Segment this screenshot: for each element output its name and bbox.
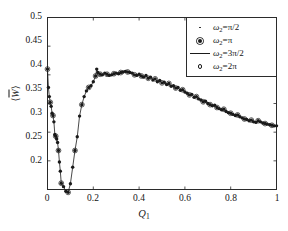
y-axis-label: ⟨W⟩: [10, 81, 21, 107]
star-marker-icon: [187, 39, 213, 43]
legend-entry: ω2=π: [187, 34, 276, 47]
point-marker-icon: [187, 27, 213, 29]
x-tick-label: 0.6: [171, 194, 199, 204]
legend-entry-label: ω2=2π: [213, 61, 237, 72]
y-tick-label: 0.5: [4, 12, 42, 22]
x-tick-label: 1: [263, 194, 288, 204]
x-tick-label: 0: [33, 194, 61, 204]
legend-entry-label: ω2=π: [213, 35, 232, 46]
y-tick-label: 0.25: [4, 132, 42, 142]
legend-entry: ω2=π/2: [187, 21, 276, 34]
legend-entry-label: ω2=π/2: [213, 22, 239, 33]
x-axis-label-sub: 1: [146, 212, 150, 221]
legend-entry: ω2=3π/2: [187, 47, 276, 60]
y-tick-label: 0.4: [4, 60, 42, 70]
x-tick-label: 0.4: [125, 194, 153, 204]
x-axis-label: Q1: [0, 208, 288, 221]
legend-omega-value: =π/2: [223, 22, 240, 32]
legend-entry: ω2=2π: [187, 60, 276, 73]
y-tick-label: 0.45: [4, 36, 42, 46]
x-axis-label-text: Q: [138, 208, 146, 219]
y-tick-label: 0.2: [4, 156, 42, 166]
legend-entry-label: ω2=3π/2: [213, 48, 244, 59]
solid-line-icon: [187, 53, 213, 54]
legend-omega-value: =2π: [223, 61, 237, 71]
open-circle-marker-icon: [187, 64, 213, 69]
chart-figure: 0.5 0.45 0.4 0.35 0.3 0.25 0.2 0 0.2 0.4…: [0, 0, 288, 231]
chart-legend: ω2=π/2 ω2=π ω2=3π/2 ω2=2π: [186, 17, 277, 77]
x-tick-label: 0.8: [217, 194, 245, 204]
x-tick-label: 0.2: [79, 194, 107, 204]
legend-omega-value: =3π/2: [223, 48, 244, 58]
y-axis-label-text: W: [10, 89, 21, 97]
y-tick-label: 0.3: [4, 108, 42, 118]
legend-omega-value: =π: [223, 35, 233, 45]
